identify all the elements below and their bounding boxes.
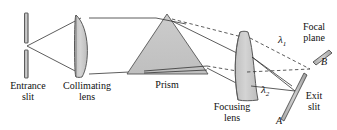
entrance-slit-bar-lower xyxy=(25,50,29,78)
ray-group-source-to-collimator xyxy=(27,18,81,74)
point-a-text: A xyxy=(276,115,282,126)
point-a-label: A xyxy=(272,116,286,127)
focusing-lens-label: Focusing lens xyxy=(203,102,261,123)
point-b-label: B xyxy=(317,57,331,68)
lambda2-label: λ2 xyxy=(261,83,269,98)
ray-lambda1-upper xyxy=(172,19,246,38)
ray-lambda2-converge-mid xyxy=(252,57,292,86)
exit-slit-label: Exit slit xyxy=(297,91,331,112)
ray-source-lower xyxy=(27,46,81,74)
point-b-text: B xyxy=(321,56,327,67)
exit-slit-label-line2: slit xyxy=(308,101,320,112)
entrance-slit-label: Entrance slit xyxy=(0,81,56,102)
lambda1-label: λ1 xyxy=(278,33,286,48)
ray-lambda2-converge-lower xyxy=(251,86,295,91)
collimating-lens-label-line1: Collimating xyxy=(63,80,111,91)
prism xyxy=(127,14,208,74)
lambda2-subscript: 2 xyxy=(266,90,270,98)
entrance-slit-label-line2: slit xyxy=(22,91,34,102)
lambda1-subscript: 1 xyxy=(283,40,287,48)
ray-group-lambda2-converge xyxy=(251,57,295,91)
ray-lambda1-converge-lower xyxy=(247,69,310,72)
prism-label-text: Prism xyxy=(155,79,178,90)
focal-plane-label-line1: Focal xyxy=(303,21,325,32)
exit-slit-label-line1: Exit xyxy=(306,90,323,101)
figure-canvas: Entrance slit Collimating lens Prism Foc… xyxy=(0,0,337,130)
focusing-lens-label-line1: Focusing xyxy=(214,101,251,112)
ray-source-upper xyxy=(27,18,81,46)
collimating-lens xyxy=(75,15,88,77)
focal-plane-label: Focal plane xyxy=(292,22,336,43)
focusing-lens xyxy=(235,31,258,101)
collimating-lens-label: Collimating lens xyxy=(54,81,120,102)
focal-plane-label-line2: plane xyxy=(303,32,325,43)
entrance-slit-bar-upper xyxy=(25,13,29,43)
optical-diagram xyxy=(0,0,337,130)
prism-label: Prism xyxy=(142,80,192,91)
entrance-slit-label-line1: Entrance xyxy=(10,80,46,91)
focusing-lens-label-line2: lens xyxy=(224,112,240,123)
collimating-lens-label-line2: lens xyxy=(79,91,95,102)
